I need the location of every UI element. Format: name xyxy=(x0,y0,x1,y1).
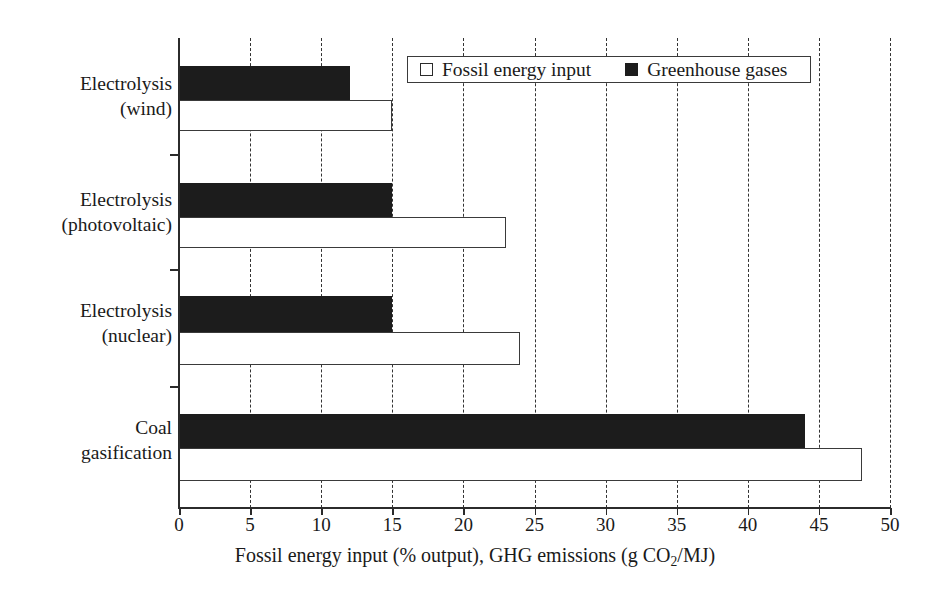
legend-entry-fossil-energy-input: Fossil energy input xyxy=(420,59,591,81)
x-axis-tick-label: 40 xyxy=(728,514,768,536)
bar-fossil-electrolysis-nuclear xyxy=(179,332,520,365)
legend-label: Greenhouse gases xyxy=(647,59,787,81)
legend: Fossil energy input Greenhouse gases xyxy=(407,56,811,83)
category-label-line: (photovoltaic) xyxy=(0,213,172,238)
category-label-electrolysis-wind: Electrolysis (wind) xyxy=(0,72,172,122)
category-label-electrolysis-photovoltaic: Electrolysis (photovoltaic) xyxy=(0,188,172,238)
x-axis-tick-label: 15 xyxy=(372,514,412,536)
plot-area xyxy=(179,38,890,508)
bar-fossil-coal-gasification xyxy=(179,448,862,481)
bar-ghg-electrolysis-nuclear xyxy=(179,296,392,332)
legend-swatch-open-square-icon xyxy=(420,63,433,76)
gridline xyxy=(890,38,891,508)
x-axis-tick-label: 35 xyxy=(657,514,697,536)
x-axis-tick-label: 0 xyxy=(159,514,199,536)
x-axis-tick-label: 50 xyxy=(870,514,910,536)
x-axis-tick-label: 10 xyxy=(301,514,341,536)
x-axis-tick-label: 45 xyxy=(799,514,839,536)
bar-ghg-electrolysis-wind xyxy=(179,66,350,100)
bar-chart: 0 5 10 15 20 25 30 35 40 45 50 Electroly… xyxy=(0,0,950,597)
y-axis-tick xyxy=(170,386,179,388)
category-label-line: Coal xyxy=(0,416,172,441)
bar-fossil-electrolysis-photovoltaic xyxy=(179,217,506,248)
y-axis-line xyxy=(178,38,180,509)
x-axis-title-post: /MJ) xyxy=(677,544,715,566)
bar-ghg-electrolysis-photovoltaic xyxy=(179,183,392,217)
category-label-line: Electrolysis xyxy=(0,188,172,213)
x-axis-tick-label: 25 xyxy=(515,514,555,536)
category-label-line: Electrolysis xyxy=(0,72,172,97)
category-label-electrolysis-nuclear: Electrolysis (nuclear) xyxy=(0,299,172,349)
category-label-line: (wind) xyxy=(0,97,172,122)
bar-ghg-coal-gasification xyxy=(179,414,805,448)
category-label-line: Electrolysis xyxy=(0,299,172,324)
x-axis-tick-label: 5 xyxy=(230,514,270,536)
y-axis-tick xyxy=(170,154,179,156)
gridline xyxy=(819,38,820,508)
category-label-coal-gasification: Coal gasification xyxy=(0,416,172,466)
legend-entry-greenhouse-gases: Greenhouse gases xyxy=(625,59,787,81)
bar-fossil-electrolysis-wind xyxy=(179,100,392,131)
x-axis-title: Fossil energy input (% output), GHG emis… xyxy=(0,544,950,570)
x-axis-tick-label: 30 xyxy=(586,514,626,536)
legend-label: Fossil energy input xyxy=(442,59,591,81)
category-label-line: gasification xyxy=(0,441,172,466)
y-axis-tick xyxy=(170,269,179,271)
legend-swatch-filled-square-icon xyxy=(625,63,638,76)
x-axis-tick-label: 20 xyxy=(443,514,483,536)
category-label-line: (nuclear) xyxy=(0,324,172,349)
x-axis-title-pre: Fossil energy input (% output), GHG emis… xyxy=(235,544,671,566)
